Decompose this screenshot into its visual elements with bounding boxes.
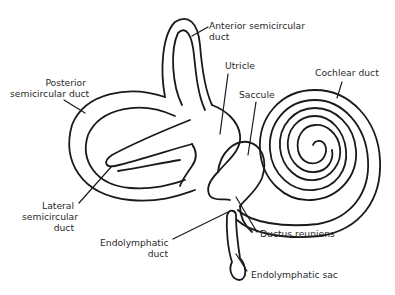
label-lateral-semicircular-duct: Lateral semicircular duct xyxy=(22,200,74,233)
labyrinth-drawing xyxy=(0,0,395,295)
label-cochlear-duct: Cochlear duct xyxy=(315,67,379,78)
leader-posterior xyxy=(64,100,85,113)
label-line: semicircular duct xyxy=(10,88,86,99)
posterior-duct-inner xyxy=(86,108,185,189)
leader-endolymphatic-duct xyxy=(173,212,228,239)
leader-lateral xyxy=(79,166,112,203)
leader-saccule xyxy=(248,102,256,155)
label-line: Endolymphatic xyxy=(100,237,168,248)
label-line: duct xyxy=(209,31,305,42)
utricle-lower xyxy=(180,144,196,186)
label-line: duct xyxy=(22,222,74,233)
label-anterior-semicircular-duct: Anterior semicircular duct xyxy=(209,20,305,42)
leader-utricle xyxy=(220,74,228,134)
label-ductus-reuniens: Ductus reuniens xyxy=(260,228,335,239)
utricle-body xyxy=(208,105,240,200)
label-posterior-semicircular-duct: Posterior semicircular duct xyxy=(10,77,86,99)
label-line: Lateral xyxy=(22,200,74,211)
leader-anterior xyxy=(192,27,208,36)
saccule-body xyxy=(218,142,264,206)
leader-endolymphatic-sac xyxy=(236,254,247,271)
label-line: semicircular xyxy=(22,211,74,222)
inner-ear-diagram: Anterior semicircular duct Posterior sem… xyxy=(0,0,395,295)
label-line: Posterior xyxy=(10,77,86,88)
lateral-duct-lower xyxy=(118,160,180,171)
label-saccule: Saccule xyxy=(239,89,275,100)
label-endolymphatic-duct: Endolymphatic duct xyxy=(100,237,168,259)
cochlear-duct-outer xyxy=(238,100,368,225)
label-endolymphatic-sac: Endolymphatic sac xyxy=(251,269,338,280)
label-line: Anterior semicircular xyxy=(209,20,305,31)
cochlear-duct-spiral xyxy=(237,90,380,237)
label-line: duct xyxy=(100,248,168,259)
label-utricle: Utricle xyxy=(225,60,255,71)
